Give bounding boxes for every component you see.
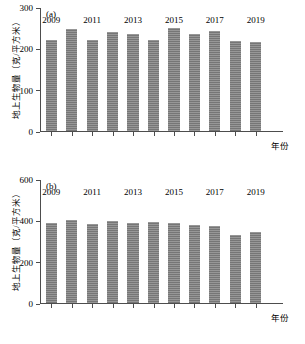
y-axis-title-a: 地上生物量（克/平方米）: [9, 6, 21, 130]
x-tick-mark: [154, 132, 155, 136]
x-tick-label: 2019: [247, 15, 265, 25]
bar-2010: [66, 29, 77, 131]
bar-2019: [250, 232, 261, 303]
x-tick-mark: [72, 304, 73, 308]
x-tick-mark: [92, 132, 93, 136]
x-tick-label: 2017: [206, 15, 224, 25]
x-tick-mark: [235, 132, 236, 136]
x-tick-mark: [174, 132, 175, 136]
x-axis-title-b: 年份: [271, 311, 289, 323]
x-tick-mark: [92, 304, 93, 308]
bar-2019: [250, 42, 261, 131]
x-tick-label: 2019: [247, 187, 265, 197]
bar-2009: [46, 223, 57, 303]
x-tick-mark: [154, 304, 155, 308]
y-tick-label: 200: [20, 258, 34, 268]
x-tick-label: 2015: [165, 15, 183, 25]
x-tick-mark: [194, 304, 195, 308]
x-tick-label: 2009: [42, 187, 60, 197]
panel-a: 地上生物量（克/平方米） (a) 01002003002009201120132…: [0, 0, 305, 172]
y-tick-mark: [36, 90, 40, 91]
x-tick-mark: [256, 304, 257, 308]
bar-2014: [148, 222, 159, 303]
y-tick-mark: [36, 221, 40, 222]
x-axis-line-b: [40, 303, 283, 304]
x-tick-label: 2013: [124, 15, 142, 25]
x-tick-mark: [51, 304, 52, 308]
x-tick-label: 2011: [83, 15, 101, 25]
x-axis-title-a: 年份: [271, 139, 289, 151]
x-axis-line-a: [40, 131, 283, 132]
bar-2014: [148, 40, 159, 131]
x-tick-mark: [133, 304, 134, 308]
x-tick-mark: [72, 132, 73, 136]
y-tick-mark: [36, 180, 40, 181]
y-tick-label: 400: [20, 216, 34, 226]
bar-2010: [66, 220, 77, 303]
x-tick-mark: [174, 304, 175, 308]
bar-2009: [46, 40, 57, 131]
bar-2016: [189, 225, 200, 303]
panel-b: 地上生物量（克/平方米） (b) 02004006002009201120132…: [0, 172, 305, 344]
y-tick-label: 600: [20, 175, 34, 185]
y-tick-label: 300: [20, 3, 34, 13]
bar-2017: [209, 226, 220, 303]
plot-area-b: 0200400600200920112013201520172019: [40, 180, 266, 304]
x-tick-mark: [51, 132, 52, 136]
bar-2018: [230, 41, 241, 131]
y-tick-mark: [36, 8, 40, 9]
bar-2015: [168, 223, 179, 303]
plot-area-a: 0100200300200920112013201520172019: [40, 8, 266, 132]
y-axis-title-b: 地上生物量（克/平方米）: [9, 178, 21, 302]
x-tick-label: 2015: [165, 187, 183, 197]
bar-2016: [189, 34, 200, 131]
x-tick-mark: [113, 132, 114, 136]
bar-2015: [168, 28, 179, 131]
y-tick-label: 0: [29, 127, 34, 137]
bar-series-a: [41, 8, 266, 131]
bar-2017: [209, 31, 220, 131]
y-tick-mark: [36, 132, 40, 133]
y-tick-mark: [36, 262, 40, 263]
x-tick-label: 2011: [83, 187, 101, 197]
x-tick-mark: [215, 132, 216, 136]
x-tick-mark: [194, 132, 195, 136]
y-tick-mark: [36, 304, 40, 305]
bar-2011: [87, 224, 98, 303]
bar-2011: [87, 40, 98, 131]
y-tick-mark: [36, 49, 40, 50]
bar-2013: [127, 34, 138, 131]
x-tick-label: 2013: [124, 187, 142, 197]
y-tick-label: 200: [20, 44, 34, 54]
x-tick-mark: [215, 304, 216, 308]
x-tick-mark: [256, 132, 257, 136]
bar-2012: [107, 221, 118, 303]
y-tick-label: 100: [20, 86, 34, 96]
x-tick-mark: [113, 304, 114, 308]
x-tick-label: 2009: [42, 15, 60, 25]
x-tick-mark: [235, 304, 236, 308]
bar-2018: [230, 235, 241, 303]
x-tick-label: 2017: [206, 187, 224, 197]
x-tick-mark: [133, 132, 134, 136]
bar-series-b: [41, 180, 266, 303]
y-tick-label: 0: [29, 299, 34, 309]
bar-2013: [127, 223, 138, 303]
bar-2012: [107, 32, 118, 131]
